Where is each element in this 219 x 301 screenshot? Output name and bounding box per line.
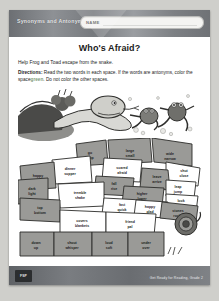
maze-cell-word-top: go [88,151,92,155]
maze-cell-word-bottom: close [180,174,189,178]
maze-cell-word-top: look [177,199,184,203]
maze-cell-word-bottom: jump [173,190,182,194]
maze-cell-word-bottom: over [142,246,150,250]
series-title: Synonyms and Antonyms [17,18,86,24]
maze-cell-word-top: top [37,206,42,210]
name-writing-line [103,25,197,26]
maze-cell-word-top: tremble [74,191,87,195]
maze-cell-word-top: leave [153,175,162,179]
maze-cell-word-bottom: light [28,192,36,196]
maze-cell-word-bottom: bottom [34,211,46,215]
maze-cell-word-top: down [31,241,40,245]
maze-cell-word-bottom: blankets [75,224,89,228]
maze-cell-word-top: stones [172,209,183,213]
worksheet-page: Synonyms and Antonyms NAME Who's Afraid?… [9,10,210,285]
name-label: NAME [86,20,100,25]
directions: Directions: Read the two words in each s… [18,70,204,84]
maze-cell-word-top: shut [180,169,188,173]
maze-cell-word-top: scared [116,166,127,170]
maze-cell-word-top: fast [119,203,126,207]
maze-cell-word-bottom: small [126,154,135,158]
maze-cell-word-bottom: soft [106,246,113,250]
illustration-snake-frog-toad [18,86,202,144]
maze-cell-word-top: friend [125,220,135,224]
maze-cell[interactable] [20,198,60,222]
maze-cell-word-bottom: whisper [64,246,79,250]
maze-cell-word-top: shout [67,241,77,245]
publisher-logo: FSP [15,270,32,282]
maze-cell-word-top: dark [28,187,35,191]
maze-cell-word-top: happy [33,174,43,178]
maze-cell-word-top: higher [137,192,148,196]
maze-cell-word-top: fall [111,182,116,186]
maze-cell[interactable] [58,182,104,208]
maze-cell-word-bottom: quick [117,208,126,212]
lead-text: Help Frog and Toad escape from the snake… [18,60,202,66]
page-title: Who's Afraid? [9,43,210,53]
directions-text-part2: . Do not color the other spaces. [43,77,108,82]
maze-cell-word-bottom: narrow [164,157,176,161]
maze-cell-word-bottom: shake [75,196,85,200]
maze-cell-word-top: covers [76,219,87,223]
directions-color-word: green [31,77,44,82]
name-field[interactable]: NAME [80,16,204,29]
maze-cell-word-bottom: supper [64,172,76,176]
directions-label: Directions: [18,70,42,75]
maze-cell-word-bottom: rise [111,187,117,191]
maze-cell-word-top: wide [165,152,174,156]
maze-cell-word-top: loud [105,241,112,245]
page-header: Synonyms and Antonyms NAME [9,10,210,37]
antonym-maze[interactable]: gostoplargesmallwidenarrowdinnersuppersc… [18,138,202,258]
maze-cell-word-bottom: arrive [152,180,162,184]
maze-cell-word-top: dinner [65,167,76,171]
maze-cell-word-top: under [141,241,151,245]
publisher-logo-text: FSP [20,274,27,278]
maze-cell-word-bottom: pal [127,225,132,229]
maze-cell-word-bottom: afraid [117,171,127,175]
maze-cell-word-top: large [126,149,134,153]
grass-decoration [168,247,182,255]
maze-cell-word-bottom: up [34,246,38,250]
footer-credit: Get Ready for Reading, Grade 2 [150,276,203,280]
maze-cell-word-top: leap [174,185,181,189]
page-footer: FSP Get Ready for Reading, Grade 2 [9,266,210,285]
maze-cell-word-top: happy [145,205,155,209]
